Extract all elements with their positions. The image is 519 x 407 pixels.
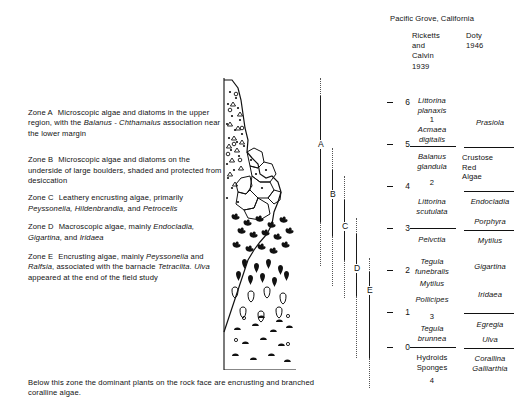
entry-line: Hydroids xyxy=(406,353,458,363)
col-b-head-line: 1946 xyxy=(466,41,483,51)
col-a-head-line: 1939 xyxy=(412,62,440,72)
entry-line: Corallina xyxy=(462,354,518,364)
figure-root: Zone AMicroscopic algae and diatoms in t… xyxy=(0,0,519,407)
scale-tick xyxy=(387,270,393,271)
entry-littorina-scutulata: Littorina scutulata xyxy=(406,197,458,216)
zone-bar-e-upper-dotted xyxy=(369,258,370,272)
zone-bar-a-lower-dotted xyxy=(320,222,321,266)
zone-bar-label-e: E xyxy=(366,286,374,295)
entry-tegula-brunnea: Tegula brunnea xyxy=(406,324,458,343)
col-a-head-line: and xyxy=(412,41,440,51)
zone-bar-label-c: C xyxy=(341,222,349,231)
entry-pollicipes: Pollicipes xyxy=(406,295,458,305)
entry-number-1: 1 xyxy=(406,115,458,125)
scale-tick xyxy=(387,144,393,145)
entry-mytilus: Mytilus xyxy=(406,279,458,289)
divider-rule xyxy=(464,348,514,349)
entry-tegula-funebralis: Tegula funebralis xyxy=(406,257,458,276)
entry-line: scutulata xyxy=(406,207,458,217)
zone-bar-b-upper-dotted xyxy=(332,148,333,170)
entry-line: funebralis xyxy=(406,267,458,277)
entry-prasiola: Prasiola xyxy=(462,118,518,128)
scale-tick xyxy=(387,312,393,313)
zone-bar-d-lower-dotted xyxy=(356,296,357,358)
zone-bar-d-upper-dotted xyxy=(356,218,357,234)
divider-rule xyxy=(410,228,456,229)
entry-line: Balanus xyxy=(406,152,458,162)
entry-number-3: 3 xyxy=(406,312,458,322)
col-a-head-line: Calvin xyxy=(412,51,440,61)
divider-rule xyxy=(464,230,514,231)
entry-gigartina: Gigartina xyxy=(462,262,518,272)
zone-range-bars: A B C D E xyxy=(296,78,386,370)
entry-pelvctia: Pelvctia xyxy=(406,235,458,245)
entry-acmaea-digitalis: Acmaea digitalis xyxy=(406,125,458,144)
entry-line: Tegula xyxy=(406,257,458,267)
zone-bar-label-a: A xyxy=(317,140,325,149)
zone-bar-c-lower-dotted xyxy=(344,260,345,298)
entry-line: brunnea xyxy=(406,334,458,344)
zone-bar-c-upper-dotted xyxy=(344,176,345,200)
entry-line: Acmaea xyxy=(406,125,458,135)
entry-line: Littorina xyxy=(406,96,458,106)
column-header-ricketts-calvin: Ricketts and Calvin 1939 xyxy=(412,31,440,72)
zone-bar-e-lower-dotted xyxy=(369,358,370,388)
zone-bar-label-b: B xyxy=(329,190,337,199)
entry-line: Tegula xyxy=(406,324,458,334)
rock-profile-illustration xyxy=(148,78,296,370)
zone-label-d: Zone D xyxy=(28,222,54,231)
entry-iridaea: Iridaea xyxy=(462,290,518,300)
entry-line: digitalis xyxy=(406,135,458,145)
zone-bar-a-solid xyxy=(320,96,321,222)
entry-egregia: Egregia xyxy=(462,320,518,330)
scale-tick xyxy=(387,102,393,103)
entry-porphyra: Porphyra xyxy=(462,217,518,227)
scale-tick xyxy=(387,228,393,229)
entry-line: Algae xyxy=(462,172,518,182)
zone-bar-b-lower-dotted xyxy=(332,236,333,286)
scale-tick xyxy=(387,347,393,348)
entry-corallina-galliarthia: Corallina Galliarthia xyxy=(462,354,518,373)
entry-number-4: 4 xyxy=(406,376,458,386)
entry-line: Red xyxy=(462,163,518,173)
entry-line: Littorina xyxy=(406,197,458,207)
col-b-head-line: Doty xyxy=(466,31,483,41)
entry-crustose-red-algae: Crustose Red Algae xyxy=(462,153,518,182)
divider-rule xyxy=(464,191,514,192)
zone-label-c: Zone C xyxy=(28,193,54,202)
divider-rule xyxy=(410,146,456,147)
col-a-head-line: Ricketts xyxy=(412,31,440,41)
zone-bar-a-upper-dotted xyxy=(320,78,321,96)
entry-balanus-glandula: Balanus glandula xyxy=(406,152,458,171)
scale-tick xyxy=(387,186,393,187)
entry-littorina-planaxis: Littorina planaxis xyxy=(406,96,458,115)
entry-line: Crustose xyxy=(462,153,518,163)
zone-bar-label-d: D xyxy=(353,264,361,273)
entry-endocladia: Endocladia xyxy=(462,197,518,207)
zone-bar-b-solid xyxy=(332,170,333,236)
entry-line: glandula xyxy=(406,162,458,172)
entry-hydroids-sponges: Hydroids Sponges xyxy=(406,353,458,372)
column-header-doty: Doty 1946 xyxy=(466,31,483,51)
entry-mytilus-doty: Mytilus xyxy=(462,236,518,246)
zone-label-e: Zone E xyxy=(28,252,53,261)
tidal-zonation-panel: Pacific Grove, California Ricketts and C… xyxy=(386,14,519,394)
entry-number-2: 2 xyxy=(406,178,458,188)
zone-label-a: Zone A xyxy=(28,108,53,117)
figure-footnote: Below this zone the dominant plants on t… xyxy=(28,378,328,399)
zone-label-b: Zone B xyxy=(28,155,53,164)
divider-rule xyxy=(410,347,456,348)
entry-line: Sponges xyxy=(406,363,458,373)
divider-rule xyxy=(464,147,514,148)
entry-ulva: Ulva xyxy=(462,335,518,345)
entry-line: Galliarthia xyxy=(462,364,518,374)
entry-line: planaxis xyxy=(406,106,458,116)
divider-rule xyxy=(464,313,514,314)
